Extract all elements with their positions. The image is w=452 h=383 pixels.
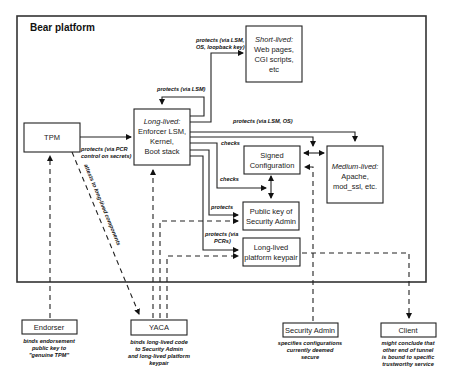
svg-text:trustworthy service: trustworthy service: [382, 361, 434, 367]
svg-text:"genuine TPM": "genuine TPM": [29, 352, 69, 358]
svg-text:etc: etc: [269, 65, 279, 74]
svg-text:Signed: Signed: [260, 151, 283, 160]
long-lived-box: Long-lived: Enforcer LSM, Kernel, Boot s…: [134, 109, 190, 165]
label-checks-1: checks: [221, 140, 240, 146]
label-protects: protects: [210, 204, 233, 210]
security-admin-box: Security Admin: [283, 323, 338, 337]
svg-text:TPM: TPM: [44, 133, 60, 142]
svg-text:Security Admin: Security Admin: [285, 326, 335, 335]
security-admin-caption: specifies configurations currently deeme…: [278, 340, 342, 360]
client-caption: might conclude that other end of tunnel …: [381, 340, 435, 367]
label-protects-pcr-2: control on secrets): [81, 153, 131, 159]
svg-text:specifies configurations: specifies configurations: [278, 340, 342, 346]
dashed-yaca-to-keypair: [167, 256, 238, 318]
platform-keypair-box: Long-lived platform keypair: [243, 238, 300, 266]
svg-text:Security Admin: Security Admin: [246, 217, 296, 226]
svg-text:Configuration: Configuration: [250, 161, 295, 170]
dashed-keypair-to-client: [302, 253, 409, 318]
endorser-caption: binds endorsement public key to "genuine…: [23, 338, 76, 358]
label-protects-lsm-os: protects (via LSM, OS): [232, 118, 293, 124]
bear-platform-diagram: Bear platform TPM Long-lived: Enforcer L…: [0, 0, 452, 383]
svg-text:Kernel,: Kernel,: [150, 137, 174, 146]
svg-text:Long-lived: Long-lived: [254, 243, 289, 252]
svg-text:Boot stack: Boot stack: [144, 147, 179, 156]
svg-text:public key to: public key to: [31, 345, 67, 351]
medium-lived-box: Medium-lived: Apache, mod_ssl, etc.: [327, 146, 383, 203]
svg-text:to Security Admin: to Security Admin: [135, 346, 183, 352]
svg-text:mod_ssl, etc.: mod_ssl, etc.: [333, 182, 377, 191]
svg-text:Enforcer LSM,: Enforcer LSM,: [138, 127, 186, 136]
svg-text:Short-lived:: Short-lived:: [255, 35, 293, 44]
label-protects-pcrs-1: protects (via: [204, 231, 238, 237]
svg-text:Client: Client: [398, 326, 418, 335]
svg-text:CGI scripts,: CGI scripts,: [254, 55, 293, 64]
signed-configuration-box: Signed Configuration: [244, 146, 300, 174]
yaca-caption: binds long-lived code to Security Admin …: [128, 339, 190, 366]
public-key-security-admin-box: Public key of Security Admin: [243, 202, 299, 230]
dashed-secadmin-to-config: [305, 167, 313, 321]
tpm-box: TPM: [24, 123, 80, 152]
svg-text:binds endorsement: binds endorsement: [23, 338, 76, 344]
label-protects-lsm: protects (via LSM): [156, 86, 206, 92]
svg-text:Apache,: Apache,: [341, 172, 369, 181]
svg-text:Endorser: Endorser: [34, 323, 65, 332]
svg-text:is bound to specific: is bound to specific: [382, 354, 435, 360]
endorser-box: Endorser: [22, 320, 77, 334]
svg-text:Web pages,: Web pages,: [254, 45, 294, 54]
svg-text:currently deemed: currently deemed: [287, 347, 334, 353]
arrow-checks-to-config: [190, 137, 313, 146]
label-protects-lsm-os-loopback-1: protects (via LSM,: [195, 37, 245, 43]
svg-text:platform keypair: platform keypair: [244, 253, 298, 262]
dashed-tpm-to-yaca: [72, 152, 139, 314]
svg-text:Public key of: Public key of: [250, 207, 293, 216]
svg-text:other end of tunnel: other end of tunnel: [383, 347, 434, 353]
svg-text:might conclude that: might conclude that: [381, 340, 435, 346]
label-protects-pcrs-2: PCRs): [214, 238, 231, 244]
label-protects-lsm-os-loopback-2: OS, loopback key): [196, 44, 245, 50]
short-lived-box: Short-lived: Web pages, CGI scripts, etc: [246, 26, 302, 82]
svg-text:secure: secure: [301, 354, 319, 360]
svg-text:YACA: YACA: [149, 323, 169, 332]
svg-text:binds long-lived code: binds long-lived code: [130, 339, 188, 345]
client-box: Client: [381, 323, 436, 337]
platform-title: Bear platform: [30, 22, 95, 33]
svg-text:Long-lived:: Long-lived:: [144, 117, 181, 126]
label-attests: attests to long-lived components: [83, 163, 122, 246]
yaca-box: YACA: [131, 320, 187, 335]
label-checks-2: checks: [220, 176, 239, 182]
svg-text:and long-lived platform: and long-lived platform: [128, 353, 190, 359]
label-protects-pcr-1: protects (via PCR: [80, 146, 128, 152]
svg-text:Medium-lived:: Medium-lived:: [332, 162, 379, 171]
svg-text:keypair: keypair: [149, 360, 169, 366]
